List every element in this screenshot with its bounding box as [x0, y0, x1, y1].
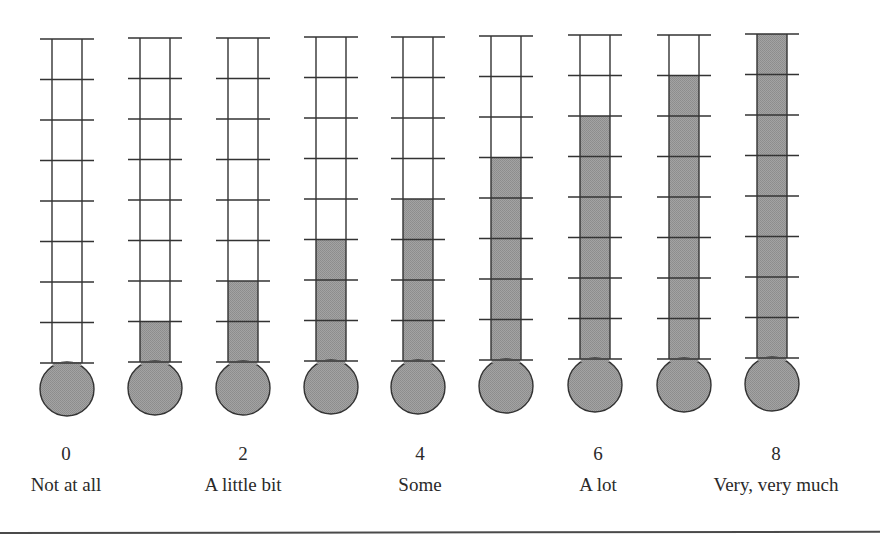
- scale-anchor-label: Some: [398, 474, 441, 496]
- thermometer-2: [216, 38, 270, 415]
- scale-anchor-label: Very, very much: [714, 474, 839, 496]
- thermometer-bulb: [745, 357, 799, 411]
- thermometer-fill: [669, 76, 699, 360]
- thermometer-bulb: [216, 361, 270, 415]
- thermometer-fill: [140, 322, 170, 363]
- thermometer-bulb: [40, 362, 94, 416]
- thermometer-bulb: [568, 358, 622, 412]
- scale-anchor-label: A little bit: [204, 474, 281, 496]
- scale-anchor-label: Not at all: [31, 474, 102, 496]
- scale-value-4: 4: [415, 443, 425, 465]
- scale-value-2: 2: [238, 443, 248, 465]
- thermometer-bulb: [304, 360, 358, 414]
- scale-value-8: 8: [771, 443, 781, 465]
- thermometer-7: [657, 35, 711, 412]
- thermometer-6: [568, 35, 622, 412]
- thermometer-bulb: [657, 358, 711, 412]
- thermometer-fill: [316, 240, 346, 362]
- scale-anchor-label: A lot: [579, 474, 616, 496]
- thermometer-4: [391, 37, 445, 414]
- thermometer-0: [40, 39, 94, 416]
- thermometer-bulb: [479, 359, 533, 413]
- thermometer-1: [128, 38, 182, 415]
- thermometer-8: [745, 34, 799, 411]
- scale-value-6: 6: [593, 443, 603, 465]
- thermometer-scale: [0, 0, 880, 536]
- scale-value-0: 0: [61, 443, 71, 465]
- thermometer-fill: [491, 158, 521, 361]
- thermometer-bulb: [128, 361, 182, 415]
- thermometer-5: [479, 36, 533, 413]
- thermometer-3: [304, 37, 358, 414]
- thermometer-bulb: [391, 360, 445, 414]
